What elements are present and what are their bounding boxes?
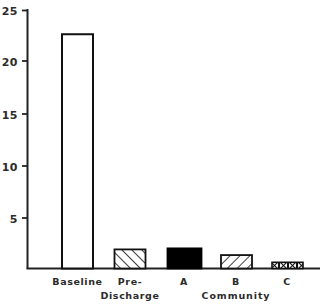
bar-community-c[interactable] xyxy=(272,262,303,268)
x-label-b: B xyxy=(232,276,240,287)
x-label-baseline: Baseline xyxy=(52,276,102,287)
x-label-pre: Pre- xyxy=(118,276,142,287)
chart-canvas: 25 20 15 10 5 Baseline Pre- Discharge A xyxy=(0,0,329,307)
y-tick-label-5: 5 xyxy=(10,213,18,226)
chart-background xyxy=(0,0,329,307)
y-tick-label-25: 25 xyxy=(2,5,18,18)
x-label-c: C xyxy=(283,276,291,287)
y-tick-label-10: 10 xyxy=(2,161,18,174)
x-label-discharge: Discharge xyxy=(101,290,160,301)
bar-chart-figure: 25 20 15 10 5 Baseline Pre- Discharge A xyxy=(0,0,329,307)
x-label-a: A xyxy=(180,276,188,287)
bar-community-b[interactable] xyxy=(221,255,252,268)
bar-pre-discharge[interactable] xyxy=(115,249,146,268)
y-tick-label-15: 15 xyxy=(2,109,18,122)
bar-baseline[interactable] xyxy=(62,34,93,268)
group-label-text: Community xyxy=(202,290,271,301)
group-label-community: Community xyxy=(202,290,271,301)
y-tick-label-20: 20 xyxy=(2,56,18,69)
bar-community-a[interactable] xyxy=(168,248,202,268)
